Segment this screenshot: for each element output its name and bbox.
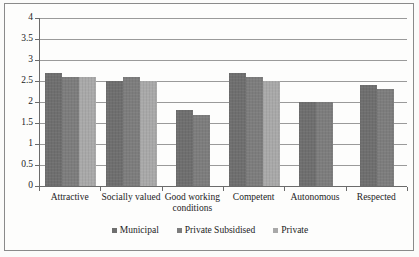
legend-swatch-icon (177, 228, 182, 233)
legend-swatch-icon (273, 228, 278, 233)
y-tick-label: 3.5 (21, 34, 33, 44)
x-tick-mark (223, 187, 224, 191)
legend-item-label: Private Subsidised (185, 225, 255, 235)
bars-layer (40, 18, 407, 186)
bar-group (40, 18, 101, 186)
y-tick-mark (35, 39, 39, 40)
bar-group (163, 18, 224, 186)
y-tick-label: 3 (28, 55, 33, 65)
y-tick-mark (35, 165, 39, 166)
x-axis-category-label: Competent (223, 192, 284, 203)
bar (62, 77, 79, 186)
x-axis-category-label: Socially valued (100, 192, 161, 203)
legend-item[interactable]: Private (273, 225, 308, 235)
y-tick-label: 2.5 (21, 76, 33, 86)
x-tick-mark (39, 187, 40, 191)
bar (360, 85, 377, 186)
legend-item-label: Private (281, 225, 308, 235)
bar (377, 89, 394, 186)
bar (123, 77, 140, 186)
y-tick-mark (35, 123, 39, 124)
bar (193, 115, 210, 186)
bar (229, 73, 246, 186)
bar (316, 102, 333, 186)
bar-group (224, 18, 285, 186)
x-tick-mark (100, 187, 101, 191)
y-tick-label: 4 (28, 13, 33, 23)
bar-group (285, 18, 346, 186)
bar (45, 73, 62, 186)
x-tick-mark (162, 187, 163, 191)
x-axis-category-label: Respected (346, 192, 407, 203)
x-tick-mark (346, 187, 347, 191)
plot-area: 00.511.522.533.54 (39, 18, 407, 186)
bar (140, 81, 157, 186)
x-axis-category-label: Autonomous (284, 192, 345, 203)
bar-group (101, 18, 162, 186)
chart-legend: MunicipalPrivate SubsidisedPrivate (5, 225, 415, 235)
chart-frame: 00.511.522.533.54 AttractiveSocially val… (4, 3, 414, 251)
y-tick-label: 2 (28, 97, 33, 107)
x-tick-mark (284, 187, 285, 191)
figure-root: 00.511.522.533.54 AttractiveSocially val… (0, 0, 419, 257)
legend-item[interactable]: Municipal (112, 225, 159, 235)
y-tick-label: 1 (28, 139, 33, 149)
y-tick-mark (35, 18, 39, 19)
y-tick-label: 0.5 (21, 160, 33, 170)
y-tick-label: 1.5 (21, 118, 33, 128)
y-tick-label: 0 (28, 181, 33, 191)
bar (176, 110, 193, 186)
x-axis-category-label: Good working conditions (162, 192, 223, 214)
y-tick-mark (35, 102, 39, 103)
bar (263, 81, 280, 186)
legend-item[interactable]: Private Subsidised (177, 225, 255, 235)
x-axis-category-label: Attractive (39, 192, 100, 203)
legend-item-label: Municipal (120, 225, 159, 235)
y-tick-mark (35, 60, 39, 61)
bar (299, 102, 316, 186)
bar (106, 81, 123, 186)
bar (246, 77, 263, 186)
y-tick-mark (35, 144, 39, 145)
bar-group (347, 18, 408, 186)
bar (79, 77, 96, 186)
y-tick-mark (35, 81, 39, 82)
legend-swatch-icon (112, 228, 117, 233)
x-tick-mark (407, 187, 408, 191)
